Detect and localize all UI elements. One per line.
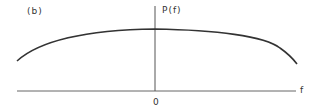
x-axis-label: f [300,86,304,95]
panel-label: (b) [27,7,43,16]
y-axis-label: P(f) [162,6,182,15]
curve-p-of-f [17,29,297,64]
power-spectrum-chart [0,0,318,112]
origin-tick-label: 0 [153,98,160,107]
